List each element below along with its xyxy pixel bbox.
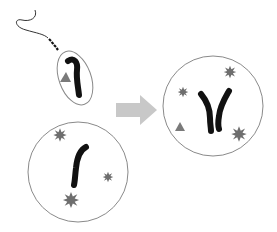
right-arrow-icon xyxy=(116,95,157,125)
zygote-chromosome-right xyxy=(218,91,229,129)
zygote-cell xyxy=(163,56,263,156)
zygote-granule-3 xyxy=(231,126,246,141)
sperm-cell xyxy=(16,10,99,110)
sperm-chromosome xyxy=(68,60,79,95)
egg-chromosome xyxy=(74,147,86,185)
sperm-tail xyxy=(16,10,48,38)
zygote-chromosome-left xyxy=(201,94,211,131)
egg-granule-1 xyxy=(53,128,66,141)
egg-granule-3 xyxy=(63,192,79,208)
zygote-granule-2 xyxy=(178,87,189,98)
egg-cell xyxy=(28,122,128,222)
zygote-triangle-icon xyxy=(175,122,185,131)
fertilization-diagram xyxy=(0,0,277,232)
zygote-membrane xyxy=(163,56,263,156)
egg-granule-2 xyxy=(103,172,114,183)
zygote-granule-1 xyxy=(224,66,237,79)
sperm-midpiece xyxy=(49,39,58,50)
sperm-triangle-icon xyxy=(60,72,71,82)
